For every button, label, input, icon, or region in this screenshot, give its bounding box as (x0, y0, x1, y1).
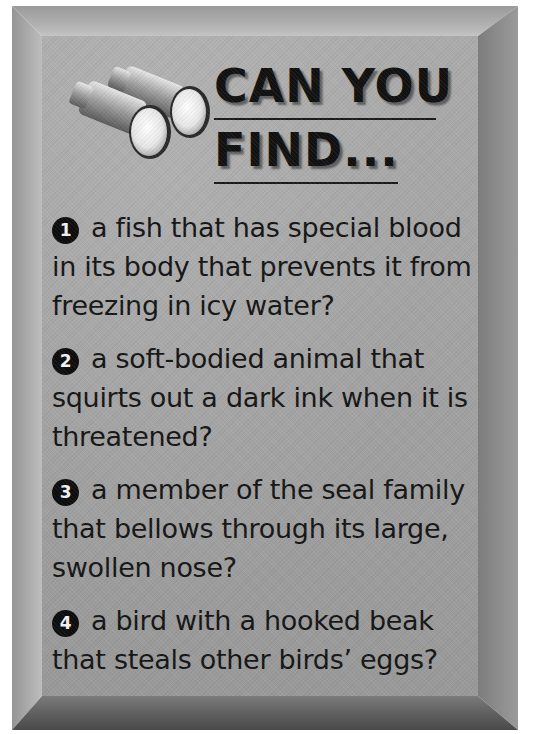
title-line-1: CAN YOU (214, 60, 436, 120)
number-badge-icon: 3 (52, 479, 79, 506)
binoculars-icon (68, 60, 218, 160)
question-text: a member of the seal family that bellows… (52, 474, 465, 583)
question-item: 3a member of the seal family that bellow… (52, 470, 472, 587)
page-title: CAN YOU FIND... (214, 60, 444, 184)
can-you-find-plaque: CAN YOU FIND... 1a fish that has special… (12, 6, 518, 730)
question-item: 4a bird with a hooked beak that steals o… (52, 601, 472, 679)
title-line-2: FIND... (214, 124, 398, 184)
question-item: 2a soft-bodied animal that squirts out a… (52, 339, 472, 456)
bevel-bottom (12, 696, 518, 730)
number-badge-icon: 1 (52, 217, 79, 244)
bevel-left (12, 6, 42, 730)
plaque-face: CAN YOU FIND... 1a fish that has special… (42, 36, 478, 696)
header: CAN YOU FIND... (42, 36, 478, 196)
question-text: a bird with a hooked beak that steals ot… (52, 605, 438, 675)
question-item: 1a fish that has special blood in its bo… (52, 208, 472, 325)
bevel-right (478, 6, 518, 730)
question-text: a fish that has special blood in its bod… (52, 212, 472, 321)
number-badge-icon: 4 (52, 610, 79, 637)
number-badge-icon: 2 (52, 348, 79, 375)
question-list: 1a fish that has special blood in its bo… (52, 208, 472, 693)
bevel-top (12, 6, 518, 36)
question-text: a soft-bodied animal that squirts out a … (52, 343, 468, 452)
